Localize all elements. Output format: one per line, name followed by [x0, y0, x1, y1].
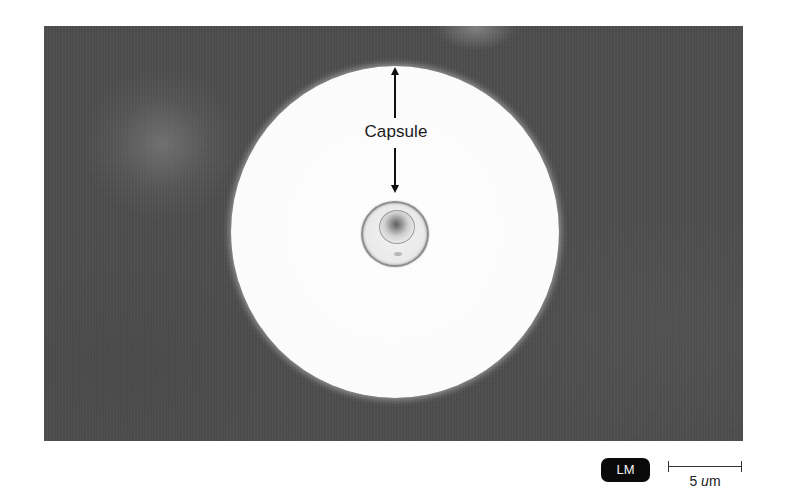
microscopy-type-badge: LM — [601, 458, 650, 482]
arrow-down-icon — [391, 185, 399, 193]
scale-bar — [668, 466, 742, 467]
scale-bar-right-cap — [741, 461, 742, 472]
arrow-shaft-down — [394, 148, 396, 186]
scale-unit-prefix: u — [701, 473, 709, 489]
arrow-shaft-up — [394, 74, 396, 118]
capsule-label: Capsule — [357, 121, 435, 143]
cell-body — [379, 210, 415, 244]
scale-bar-label: 5 um — [668, 473, 742, 489]
scale-value: 5 — [689, 473, 697, 489]
scale-unit-suffix: m — [709, 473, 721, 489]
cell-inclusion — [394, 252, 402, 256]
